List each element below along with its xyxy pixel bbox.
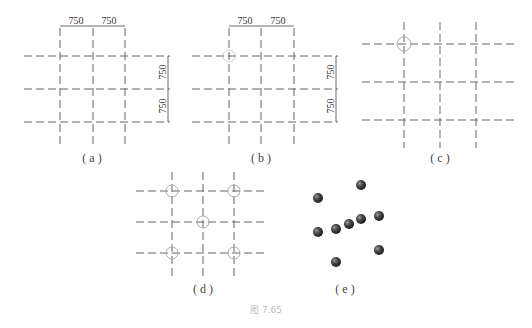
- dimension-label: 750: [157, 65, 168, 80]
- dimension-label: 750: [69, 15, 84, 26]
- sphere: [344, 219, 354, 229]
- panel-label: ( c ): [430, 151, 449, 165]
- figure-canvas: 750 750 750 750 ( a ) 750 750 750 750 ( …: [0, 0, 532, 328]
- panel-a: 750 750 750 750 ( a ): [24, 15, 170, 165]
- sphere: [313, 193, 323, 203]
- dimension-label: 750: [271, 15, 286, 26]
- panel-label: ( d ): [193, 282, 213, 296]
- panel-label: ( a ): [82, 151, 101, 165]
- scaffold-grid: [362, 22, 515, 148]
- dimension-label: 750: [325, 99, 336, 114]
- panel-e: ( e ): [313, 180, 384, 296]
- panel-label: ( e ): [335, 282, 354, 296]
- sphere: [313, 227, 323, 237]
- scaffold-grid: [136, 172, 266, 276]
- dimension-label: 750: [157, 99, 168, 114]
- sphere: [331, 257, 341, 267]
- figure-caption: 图 7.65: [250, 305, 282, 315]
- dimension-label: 750: [238, 15, 253, 26]
- panel-c: ( c ): [362, 22, 515, 165]
- scaffold-grid: [24, 28, 170, 148]
- dimension-lines: [60, 26, 168, 122]
- dimension-label: 750: [102, 15, 117, 26]
- scaffold-grid: [192, 28, 338, 148]
- panel-d: ( d ): [136, 172, 266, 296]
- sphere: [356, 214, 366, 224]
- panel-label: ( b ): [251, 151, 271, 165]
- dimension-label: 750: [325, 65, 336, 80]
- sphere: [374, 211, 384, 221]
- sphere: [356, 180, 366, 190]
- sphere: [374, 245, 384, 255]
- panel-b: 750 750 750 750 ( b ): [192, 15, 338, 165]
- dimension-lines: [229, 26, 336, 122]
- sphere: [331, 224, 341, 234]
